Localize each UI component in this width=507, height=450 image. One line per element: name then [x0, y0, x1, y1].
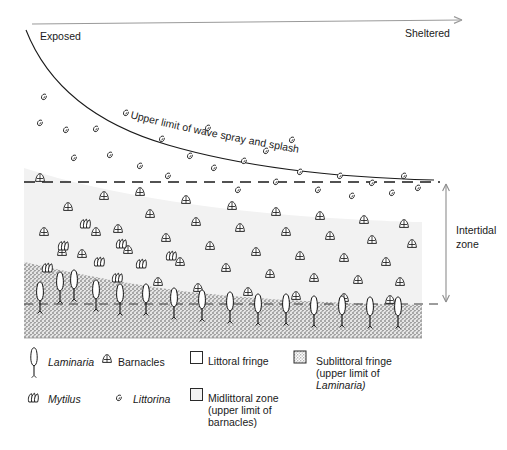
legend-sub-midlittoral-1: (upper limit of: [208, 404, 272, 416]
legend-sub-sublittoral-2: Laminaria): [316, 379, 366, 391]
legend-label-littoral-fringe: Littoral fringe: [208, 355, 269, 367]
legend-barnacle-icon: [103, 355, 112, 363]
wave-splash-curve: [26, 30, 434, 180]
legend-sub-sublittoral-1: (upper limit of: [316, 367, 380, 379]
axis-label-sheltered: Sheltered: [405, 27, 450, 39]
legend-label-sublittoral-fringe: Sublittoral fringe: [316, 355, 392, 367]
exposure-axis: [32, 17, 462, 24]
legend-swatch-sublittoral: [294, 351, 306, 363]
littorina-population: [37, 94, 420, 199]
intertidal-label-line2: zone: [456, 238, 479, 250]
legend-label-littorina: Littorina: [133, 393, 170, 405]
legend-mytilus-icon: [28, 393, 38, 402]
legend-label-barnacles: Barnacles: [118, 356, 165, 368]
intertidal-zone-bracket: [443, 184, 450, 302]
legend-sub-midlittoral-2: barnacles): [208, 416, 257, 428]
legend-label-laminaria: Laminaria: [48, 356, 94, 368]
legend-littorina-icon: [116, 395, 121, 401]
axis-label-exposed: Exposed: [40, 30, 81, 42]
legend-swatch-midlittoral: [190, 388, 203, 401]
legend-label-mytilus: Mytilus: [48, 393, 81, 405]
legend-label-midlittoral-zone: Midlittoral zone: [208, 392, 279, 404]
svg-text:Upper limit of wave spray and: Upper limit of wave spray and splash: [129, 108, 300, 155]
splash-label-text: Upper limit of wave spray and splash: [129, 108, 300, 155]
legend-swatch-littoral-fringe: [190, 351, 203, 364]
legend-laminaria-icon: [31, 348, 37, 378]
splash-curve-label: Upper limit of wave spray and splash: [129, 108, 360, 163]
shore-zonation-diagram: Exposed Sheltered Upper limit of wave sp…: [0, 0, 507, 450]
intertidal-label-line1: Intertidal: [456, 224, 496, 236]
